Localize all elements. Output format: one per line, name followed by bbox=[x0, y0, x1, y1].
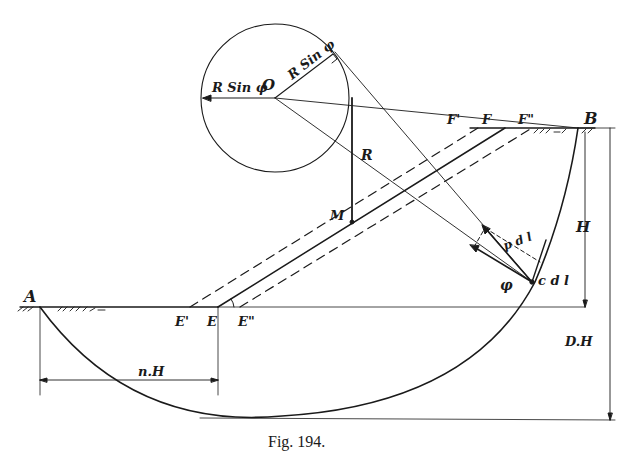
radius-r-line bbox=[275, 98, 532, 282]
dim-dh-base bbox=[200, 418, 615, 420]
label-nh: n.H bbox=[138, 364, 165, 379]
slope-dashed-lower bbox=[240, 128, 532, 307]
slope-stability-diagram: R Sin φ O R Sin φ R M A B F' F F" E' E E… bbox=[0, 0, 628, 460]
dim-h-arrow bbox=[583, 300, 587, 307]
label-m: M bbox=[329, 208, 345, 223]
label-o: O bbox=[262, 76, 275, 94]
dim-nh-arrow-right bbox=[211, 378, 218, 382]
label-r-sin-phi-left: R Sin φ bbox=[211, 80, 268, 95]
force-point bbox=[530, 280, 534, 284]
label-e-double-prime: E" bbox=[237, 314, 255, 329]
label-e: E bbox=[206, 314, 218, 329]
label-b: B bbox=[583, 109, 598, 128]
label-r: R bbox=[360, 147, 373, 163]
label-f-double-prime: F" bbox=[517, 112, 534, 127]
ground-hatching-right bbox=[534, 129, 592, 133]
label-c-dl: c d l bbox=[538, 273, 569, 288]
dim-nh-arrow-left bbox=[40, 378, 47, 382]
label-e-prime: E' bbox=[174, 314, 189, 329]
label-f-prime: F' bbox=[446, 112, 460, 127]
label-dh: D.H bbox=[564, 334, 593, 349]
right-angle-marker bbox=[332, 54, 337, 63]
label-h: H bbox=[575, 218, 591, 236]
figure-caption: Fig. 194. bbox=[268, 433, 325, 451]
slip-circle-arc bbox=[40, 128, 578, 417]
arrowhead-left bbox=[203, 95, 211, 101]
label-f: F bbox=[481, 112, 492, 127]
dim-dh-arrow bbox=[608, 413, 612, 420]
label-r-sin-phi-top: R Sin φ bbox=[284, 36, 338, 83]
label-a: A bbox=[22, 287, 36, 306]
slope-angle-arc bbox=[231, 299, 234, 307]
label-phi: φ bbox=[500, 277, 513, 293]
label-p-dl: p d l bbox=[501, 229, 534, 252]
